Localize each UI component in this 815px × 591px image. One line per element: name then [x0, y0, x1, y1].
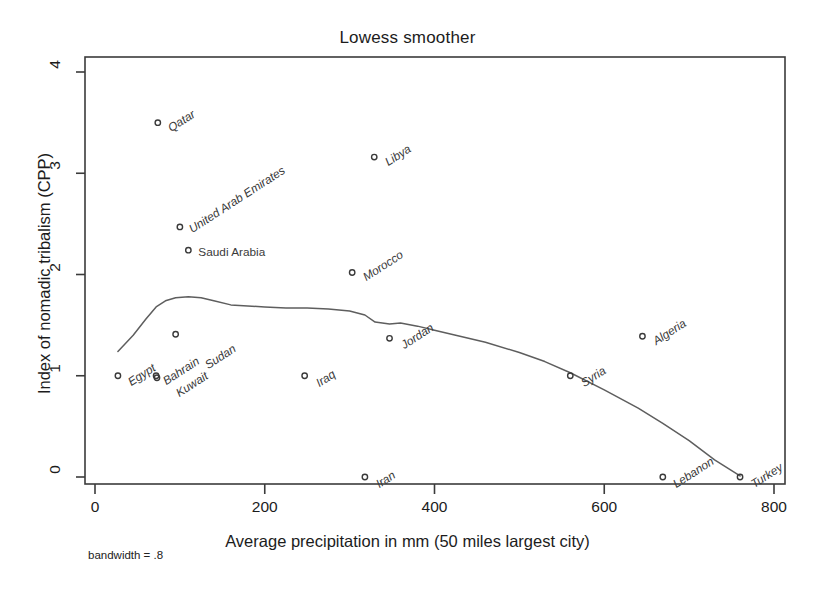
x-tick-label: 600	[591, 498, 617, 516]
data-point-marker[interactable]	[115, 373, 120, 378]
data-point-marker[interactable]	[302, 373, 307, 378]
data-point-marker[interactable]	[173, 332, 178, 337]
bandwidth-note: bandwidth = .8	[88, 549, 163, 561]
data-point-marker[interactable]	[349, 270, 354, 275]
data-point-marker[interactable]	[155, 120, 160, 125]
data-point-marker[interactable]	[177, 224, 182, 229]
plot-canvas	[0, 0, 815, 591]
data-point-marker[interactable]	[362, 474, 367, 479]
x-tick-label: 0	[91, 498, 100, 516]
data-point-marker[interactable]	[568, 373, 573, 378]
x-tick-label: 400	[422, 498, 448, 516]
data-point-marker[interactable]	[372, 154, 377, 159]
y-axis-title: Index of nomadic tribalism (CPP)	[35, 54, 54, 494]
x-tick-label: 800	[761, 498, 787, 516]
data-point-marker[interactable]	[640, 334, 645, 339]
data-point-marker[interactable]	[387, 336, 392, 341]
data-point-marker[interactable]	[186, 248, 191, 253]
x-tick-label: 200	[252, 498, 278, 516]
lowess-smoother-figure: Lowess smoother 020040060080001234 Egypt…	[0, 0, 815, 591]
data-point-label: Saudi Arabia	[198, 245, 265, 259]
data-point-marker[interactable]	[660, 474, 665, 479]
